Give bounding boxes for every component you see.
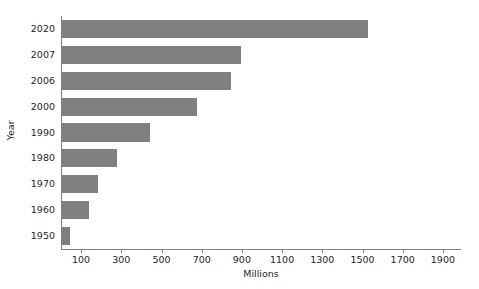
x-tick-label-900: 900 <box>222 255 262 265</box>
bar-1960 <box>61 201 89 219</box>
x-tick-label-1300: 1300 <box>302 255 342 265</box>
plot-area <box>61 16 461 249</box>
x-tick-label-1100: 1100 <box>262 255 302 265</box>
bar-row <box>61 46 461 64</box>
bar-row <box>61 72 461 90</box>
x-tick-label-1700: 1700 <box>383 255 423 265</box>
x-tick-500 <box>162 250 163 253</box>
x-tick-label-700: 700 <box>182 255 222 265</box>
x-tick-900 <box>242 250 243 253</box>
x-tick-1100 <box>282 250 283 253</box>
x-tick-1900 <box>443 250 444 253</box>
x-tick-label-500: 500 <box>142 255 182 265</box>
bar-2006 <box>61 72 231 90</box>
y-tick-label-1990: 1990 <box>1 128 55 138</box>
x-tick-700 <box>202 250 203 253</box>
bar-2007 <box>61 46 241 64</box>
bar-2020 <box>61 20 368 38</box>
bar-row <box>61 201 461 219</box>
bar-row <box>61 123 461 141</box>
x-tick-label-300: 300 <box>101 255 141 265</box>
bar-1980 <box>61 149 117 167</box>
x-tick-label-100: 100 <box>61 255 101 265</box>
bar-1990 <box>61 123 150 141</box>
x-tick-300 <box>121 250 122 253</box>
bar-row <box>61 227 461 245</box>
bar-1970 <box>61 175 98 193</box>
x-tick-1500 <box>363 250 364 253</box>
bar-chart: Year Millions 20202007200620001990198019… <box>0 0 479 289</box>
bar-row <box>61 98 461 116</box>
bar-row <box>61 175 461 193</box>
y-tick-label-2006: 2006 <box>1 76 55 86</box>
y-tick-label-1950: 1950 <box>1 231 55 241</box>
y-tick-label-1960: 1960 <box>1 205 55 215</box>
x-axis-title: Millions <box>61 268 461 279</box>
y-tick-label-2000: 2000 <box>1 102 55 112</box>
x-tick-1300 <box>322 250 323 253</box>
y-tick-label-1970: 1970 <box>1 179 55 189</box>
y-tick-label-2020: 2020 <box>1 24 55 34</box>
y-tick-label-2007: 2007 <box>1 50 55 60</box>
y-tick-label-1980: 1980 <box>1 153 55 163</box>
x-tick-1700 <box>403 250 404 253</box>
x-tick-100 <box>81 250 82 253</box>
bar-row <box>61 149 461 167</box>
bar-1950 <box>61 227 70 245</box>
bar-2000 <box>61 98 197 116</box>
bar-row <box>61 20 461 38</box>
x-tick-label-1900: 1900 <box>423 255 463 265</box>
x-tick-label-1500: 1500 <box>343 255 383 265</box>
